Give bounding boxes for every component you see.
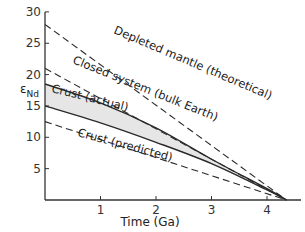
x-ticks: 1234 xyxy=(97,196,271,217)
y-tick-label: 10 xyxy=(26,130,41,144)
y-tick-label: 20 xyxy=(26,68,41,82)
y-tick-label: 15 xyxy=(26,99,41,113)
x-tick-label: 1 xyxy=(97,203,105,217)
y-tick-label: 5 xyxy=(33,162,41,176)
y-tick-label: 25 xyxy=(26,36,41,50)
x-tick-label: 3 xyxy=(208,203,216,217)
y-axis-label: εNd xyxy=(20,82,39,99)
x-axis-label: Time (Ga) xyxy=(119,215,179,229)
x-tick-label: 4 xyxy=(263,203,271,217)
y-tick-label: 30 xyxy=(26,5,41,19)
chart: 51015202530 1234 εNd Time (Ga) Depleted … xyxy=(0,0,305,232)
